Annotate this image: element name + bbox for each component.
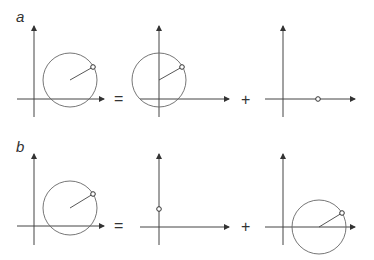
- point-marker: [316, 97, 321, 102]
- radius-line: [70, 67, 93, 80]
- vector-decomposition-diagram: a = + b: [0, 0, 374, 260]
- row-label-a: a: [16, 8, 24, 25]
- point-marker: [91, 65, 96, 70]
- panel-a-component-2: [265, 26, 355, 117]
- panel-a-total: [17, 26, 104, 117]
- plus-sign: +: [241, 218, 250, 235]
- row-b: b = +: [16, 138, 355, 254]
- row-a: a = +: [16, 8, 355, 117]
- equals-sign: =: [114, 217, 123, 234]
- point-marker: [180, 65, 185, 70]
- point-marker: [91, 192, 96, 197]
- point-marker: [340, 211, 345, 216]
- radius-line: [70, 194, 93, 208]
- panel-a-component-1: [132, 26, 229, 117]
- point-marker: [157, 207, 162, 212]
- plus-sign: +: [241, 91, 250, 108]
- row-label-b: b: [16, 138, 24, 155]
- panel-b-total: [17, 154, 104, 245]
- radius-line: [159, 67, 182, 80]
- panel-b-component-2: [265, 154, 355, 254]
- radius-line: [319, 213, 342, 227]
- equals-sign: =: [114, 90, 123, 107]
- panel-b-component-1: [140, 154, 229, 245]
